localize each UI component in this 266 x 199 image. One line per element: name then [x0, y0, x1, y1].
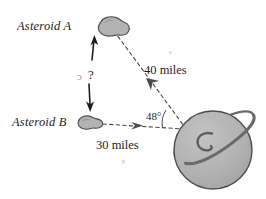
label-distance-30-miles: 30 miles	[96, 139, 139, 152]
planet-sphere	[174, 111, 252, 189]
asteroid-b-body	[78, 116, 103, 129]
edge-asteroid-b-to-planet	[103, 122, 184, 129]
label-distance-40-miles: 40 miles	[144, 64, 187, 77]
scan-artifact-below-distance-b: ᵖ	[122, 157, 125, 167]
angle-arc-48	[162, 110, 166, 127]
planet-body	[174, 111, 254, 189]
scan-artifact-near-question: ɔ	[77, 70, 82, 82]
asteroid-diagram: Asteroid A Asteroid B 40 miles 30 miles …	[0, 0, 266, 199]
asteroid-a-body	[98, 17, 129, 36]
scan-artifact-near-distance-a: ᵒ	[169, 48, 172, 58]
label-asteroid-a: Asteroid A	[17, 20, 71, 33]
label-asteroid-b: Asteroid B	[12, 116, 67, 129]
label-angle-48-degrees: 48°	[146, 111, 161, 122]
label-unknown-distance: ?	[88, 68, 94, 81]
